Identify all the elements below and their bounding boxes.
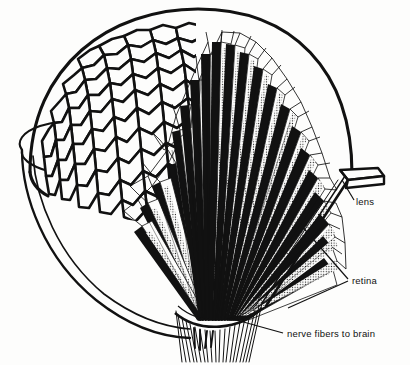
compound-eye-illustration: lens retina nerve fibers to brain (0, 0, 410, 365)
retina-label: retina (352, 275, 377, 286)
lens-tab (340, 168, 384, 188)
lens-label: lens (356, 196, 374, 207)
nerve-fibers-label: nerve fibers to brain (287, 328, 375, 339)
compound-eye-figure: lens retina nerve fibers to brain (0, 0, 410, 365)
